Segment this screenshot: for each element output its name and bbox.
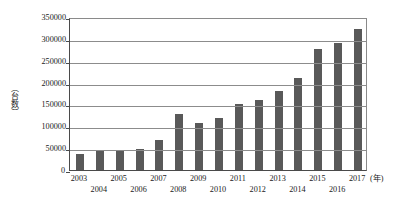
bar-chart: （台数） 50000100000150000200000250000300000… xyxy=(0,0,410,212)
bar xyxy=(116,151,124,170)
y-axis-tickmark xyxy=(66,106,70,107)
y-axis-tick-label: 350000 xyxy=(18,14,66,22)
x-axis-tick-label: 2008 xyxy=(170,185,186,194)
bar xyxy=(235,104,243,170)
y-axis-tick-label: 200000 xyxy=(18,79,66,87)
gridline xyxy=(70,85,366,86)
x-axis-tick-label: 2014 xyxy=(289,185,305,194)
bar xyxy=(314,49,322,170)
bar xyxy=(96,151,104,170)
bar xyxy=(76,154,84,170)
bar xyxy=(275,91,283,170)
bar xyxy=(215,118,223,170)
x-axis-unit-label: (年) xyxy=(370,174,383,183)
gridline xyxy=(70,128,366,129)
y-axis-tick-label: 300000 xyxy=(18,36,66,44)
bar xyxy=(175,114,183,170)
x-axis-tick-label: 2004 xyxy=(91,185,107,194)
x-axis-tick-label: 2010 xyxy=(210,185,226,194)
y-axis-tickmark xyxy=(66,150,70,151)
bar xyxy=(294,78,302,170)
plot-area xyxy=(69,18,367,171)
bar xyxy=(354,29,362,170)
y-axis-title: （台数） xyxy=(4,84,18,116)
x-axis-tick-labels: (年) 200320042005200620072008200920102011… xyxy=(0,171,410,212)
x-axis-tick-label: 2012 xyxy=(250,185,266,194)
x-axis-tick-label: 2005 xyxy=(110,174,126,183)
x-axis-tick-label: 2011 xyxy=(230,174,246,183)
x-axis-tick-label: 2006 xyxy=(130,185,146,194)
bar xyxy=(136,149,144,170)
y-axis-tickmark xyxy=(66,19,70,20)
x-axis-tick-label: 2017 xyxy=(349,174,365,183)
bar xyxy=(195,123,203,170)
x-axis-tick-label: 2013 xyxy=(269,174,285,183)
gridline xyxy=(70,41,366,42)
gridline xyxy=(70,106,366,107)
gridline xyxy=(70,150,366,151)
gridline xyxy=(70,63,366,64)
y-axis-tickmark xyxy=(66,41,70,42)
bar xyxy=(255,100,263,170)
y-axis-tickmark xyxy=(66,128,70,129)
y-axis-tick-label: 100000 xyxy=(18,123,66,131)
y-axis-tick-label: 150000 xyxy=(18,101,66,109)
x-axis-tick-label: 2009 xyxy=(190,174,206,183)
x-axis-tick-label: 2003 xyxy=(71,174,87,183)
y-axis-tick-label: 50000 xyxy=(18,145,66,153)
x-axis-tick-label: 2016 xyxy=(329,185,345,194)
y-axis-tickmark xyxy=(66,85,70,86)
bar xyxy=(155,140,163,170)
x-axis-tick-label: 2015 xyxy=(309,174,325,183)
y-axis-tickmark xyxy=(66,63,70,64)
y-axis-tick-label: 250000 xyxy=(18,58,66,66)
x-axis-tick-label: 2007 xyxy=(150,174,166,183)
